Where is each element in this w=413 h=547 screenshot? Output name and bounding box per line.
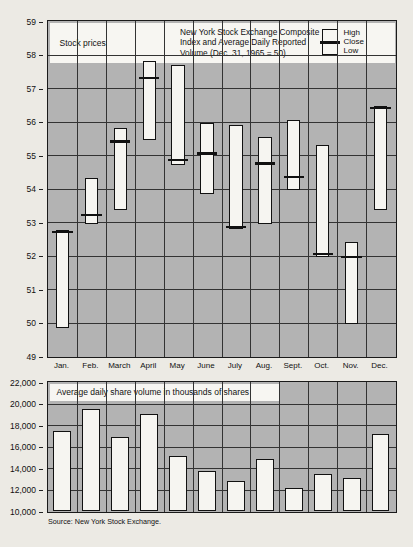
volume-y-tick-label: 14,000 (10, 464, 36, 474)
ohlc-bar (287, 120, 300, 190)
month-axis-label: July (228, 361, 242, 370)
ohlc-bar (345, 242, 358, 324)
month-axis-label: March (108, 361, 130, 370)
price-month-divider (135, 21, 136, 357)
volume-bar (314, 474, 332, 511)
volume-month-divider (366, 382, 367, 512)
volume-bar (372, 434, 390, 511)
month-axis-label: June (197, 361, 214, 370)
month-axis-label: Sept. (283, 361, 302, 370)
price-y-tick (39, 189, 43, 190)
price-y-tick (39, 22, 43, 23)
price-y-tick-label: 52 (27, 251, 36, 261)
volume-y-tick (39, 490, 43, 491)
stock-prices-label-box: Stock prices (50, 23, 175, 63)
month-axis-label: Aug. (256, 361, 272, 370)
price-y-axis: 4950515253545556575859 (0, 20, 43, 358)
price-month-divider (250, 21, 251, 357)
volume-y-tick-label: 10,000 (10, 507, 36, 517)
volume-bar (82, 409, 100, 511)
price-y-tick-label: 50 (27, 318, 36, 328)
ohlc-bar (56, 230, 69, 327)
price-y-tick (39, 256, 43, 257)
volume-month-divider (193, 382, 194, 512)
price-y-tick-label: 53 (27, 218, 36, 228)
chart-title-box: New York Stock Exchange Composite Index … (174, 23, 395, 63)
price-y-tick-label: 49 (27, 352, 36, 362)
volume-month-divider (77, 382, 78, 512)
volume-month-divider (250, 382, 251, 512)
ohlc-bar (229, 125, 242, 229)
price-y-tick-label: 58 (27, 50, 36, 60)
ohlc-close-marker (110, 140, 130, 142)
volume-bar (140, 414, 158, 511)
month-axis-label: Dec. (371, 361, 387, 370)
share-volume-chart: Average daily share volume in thousands … (47, 381, 397, 513)
volume-y-tick (39, 447, 43, 448)
ohlc-legend-labels: High Close Low (344, 29, 364, 55)
price-y-tick (39, 122, 43, 123)
ohlc-close-marker (255, 162, 275, 164)
price-month-divider (164, 21, 165, 357)
ohlc-close-marker (313, 253, 333, 255)
volume-y-axis: 10,00012,00014,00016,00018,00020,00022,0… (0, 381, 43, 513)
ohlc-legend: High Close Low (320, 29, 395, 55)
price-y-tick-label: 55 (27, 151, 36, 161)
ohlc-bar (143, 61, 156, 140)
ohlc-close-marker (81, 214, 101, 216)
ohlc-bar (316, 145, 329, 257)
month-axis-label: Jan. (54, 361, 69, 370)
price-y-tick (39, 89, 43, 90)
ohlc-close-marker (168, 159, 188, 161)
volume-y-tick-label: 18,000 (10, 421, 36, 431)
volume-bar (256, 459, 274, 511)
price-y-tick (39, 290, 43, 291)
price-y-tick-label: 56 (27, 117, 36, 127)
month-axis-label: April (140, 361, 156, 370)
volume-month-divider (106, 382, 107, 512)
price-month-divider (279, 21, 280, 357)
price-month-divider (193, 21, 194, 357)
volume-month-divider (337, 382, 338, 512)
volume-month-divider (164, 382, 165, 512)
volume-bar (53, 431, 71, 511)
volume-month-divider (222, 382, 223, 512)
month-axis-label: May (170, 361, 185, 370)
ohlc-close-marker (197, 152, 217, 154)
price-y-tick (39, 55, 43, 56)
price-month-divider (106, 21, 107, 357)
price-month-divider (222, 21, 223, 357)
volume-y-tick (39, 426, 43, 427)
ohlc-bar (85, 178, 98, 223)
volume-bar (169, 456, 187, 511)
volume-y-tick-label: 16,000 (10, 442, 36, 452)
nyse-composite-figure: 4950515253545556575859 Stock prices New … (0, 0, 413, 547)
volume-y-tick (39, 404, 43, 405)
volume-y-tick-label: 20,000 (10, 399, 36, 409)
ohlc-close-marker (341, 256, 361, 258)
volume-bar (343, 478, 361, 511)
volume-bar (227, 481, 245, 511)
ohlc-close-marker (370, 107, 390, 109)
volume-y-tick (39, 512, 43, 513)
volume-y-tick-label: 22,000 (10, 378, 36, 388)
source-note: Source: New York Stock Exchange. (48, 517, 161, 526)
ohlc-bar (200, 123, 213, 193)
volume-title: Average daily share volume in thousands … (50, 387, 250, 397)
volume-plot-area: Average daily share volume in thousands … (47, 381, 397, 513)
price-y-tick-label: 54 (27, 184, 36, 194)
price-month-divider (366, 21, 367, 357)
price-y-tick (39, 323, 43, 324)
price-y-tick (39, 156, 43, 157)
month-axis-label: Oct. (314, 361, 329, 370)
ohlc-close-marker (226, 226, 246, 228)
price-plot-area: Stock prices New York Stock Exchange Com… (47, 20, 397, 358)
price-y-tick-label: 51 (27, 285, 36, 295)
volume-month-divider (135, 382, 136, 512)
ohlc-close-marker (139, 77, 159, 79)
month-axis-label: Feb. (82, 361, 98, 370)
volume-month-divider (279, 382, 280, 512)
price-y-tick-label: 59 (27, 17, 36, 27)
ohlc-close-marker (52, 231, 72, 233)
volume-y-tick-label: 12,000 (10, 485, 36, 495)
